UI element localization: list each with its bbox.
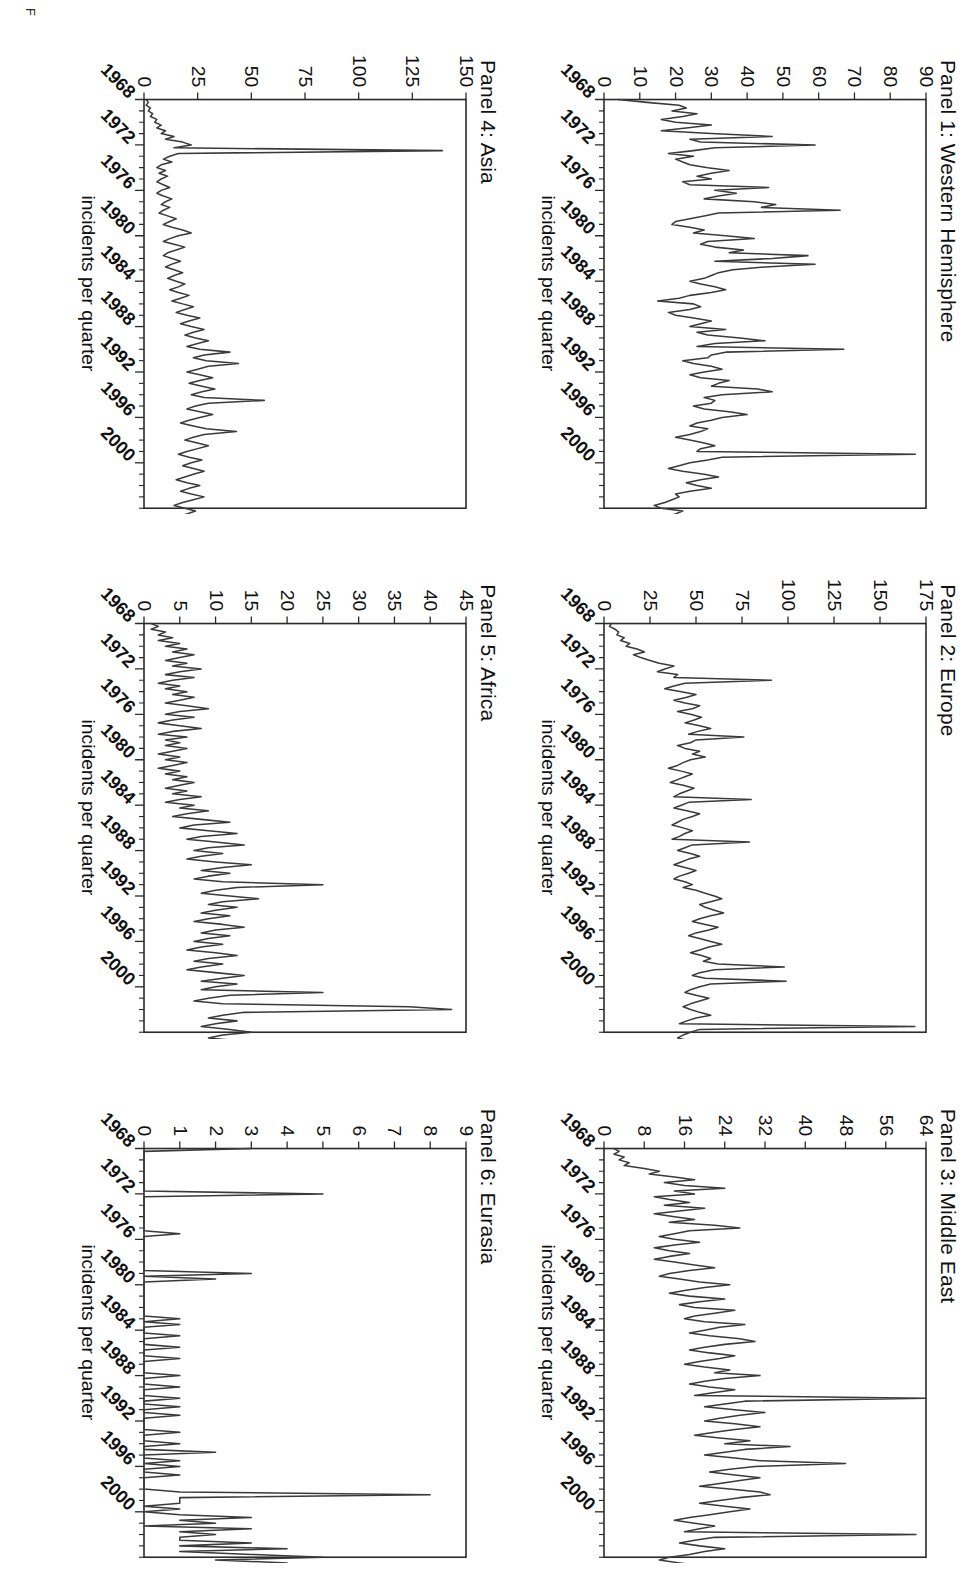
y-tick-label: 48 xyxy=(836,1115,857,1136)
panel-asia: Panel 4: Asia 0255075100125150incidents … xyxy=(46,0,506,524)
y-tick-label: 45 xyxy=(456,590,474,611)
x-tick-label: 1980 xyxy=(97,196,139,239)
x-tick-label: 1984 xyxy=(557,765,599,808)
plot-area: 0123456789incidents per quarter196819721… xyxy=(76,1055,474,1563)
x-tick-label: 1972 xyxy=(557,629,599,672)
y-tick-label: 150 xyxy=(870,579,891,611)
y-tick-label: 20 xyxy=(666,66,687,87)
plot-area: 0816243240485664incidents per quarter196… xyxy=(536,1055,934,1563)
y-tick-label: 2 xyxy=(206,1125,227,1136)
x-tick-label: 1968 xyxy=(557,1108,599,1151)
y-tick-label: 25 xyxy=(188,66,209,87)
y-tick-label: 25 xyxy=(313,590,334,611)
y-tick-label: 30 xyxy=(349,590,370,611)
y-tick-label: 75 xyxy=(732,590,753,611)
x-tick-label: 2000 xyxy=(557,1471,599,1514)
x-tick-label: 1988 xyxy=(557,811,599,854)
x-tick-label: 1980 xyxy=(557,720,599,763)
y-tick-label: 40 xyxy=(737,66,758,87)
plot-area: 0255075100125150175incidents per quarter… xyxy=(536,530,934,1038)
line-chart-africa: 051015202530354045incidents per quarter1… xyxy=(76,530,474,1038)
x-tick-label: 1968 xyxy=(557,59,599,102)
x-tick-label: 2000 xyxy=(97,423,139,466)
figure-caption: F xyxy=(23,8,38,1568)
x-tick-label: 1968 xyxy=(97,1108,139,1151)
y-tick-label: 60 xyxy=(809,66,830,87)
y-tick-label: 175 xyxy=(916,579,934,611)
x-tick-label: 1984 xyxy=(97,1290,139,1333)
plot-area: 0255075100125150incidents per quarter196… xyxy=(76,6,474,514)
x-tick-label: 1972 xyxy=(97,629,139,672)
x-tick-label: 1972 xyxy=(97,105,139,148)
y-tick-label: 40 xyxy=(420,590,441,611)
line-chart-eurasia: 0123456789incidents per quarter196819721… xyxy=(76,1055,474,1563)
y-tick-label: 16 xyxy=(675,1115,696,1136)
y-tick-label: 5 xyxy=(170,601,191,612)
x-tick-label: 1984 xyxy=(97,241,139,284)
y-tick-label: 5 xyxy=(313,1125,334,1136)
x-tick-label: 1988 xyxy=(557,1335,599,1378)
x-tick-label: 1980 xyxy=(557,196,599,239)
y-tick-label: 10 xyxy=(630,66,651,87)
panel-title: Panel 6: Eurasia xyxy=(476,1055,500,1563)
x-tick-label: 1996 xyxy=(557,1426,599,1469)
x-tick-label: 2000 xyxy=(557,423,599,466)
x-tick-label: 1980 xyxy=(97,1244,139,1287)
y-tick-label: 35 xyxy=(384,590,405,611)
y-tick-label: 9 xyxy=(456,1125,474,1136)
x-tick-label: 1996 xyxy=(97,1426,139,1469)
y-tick-label: 6 xyxy=(349,1125,370,1136)
x-tick-label: 1972 xyxy=(97,1153,139,1196)
panel-title: Panel 5: Africa xyxy=(476,530,500,1038)
y-tick-label: 40 xyxy=(795,1115,816,1136)
x-tick-label: 1996 xyxy=(557,902,599,945)
line-chart-middle-east: 0816243240485664incidents per quarter196… xyxy=(536,1055,934,1563)
y-tick-label: 25 xyxy=(640,590,661,611)
x-tick-label: 1976 xyxy=(557,675,599,718)
y-tick-label: 24 xyxy=(715,1115,736,1137)
y-axis-label: incidents per quarter xyxy=(78,1244,99,1421)
y-tick-label: 70 xyxy=(844,66,865,87)
y-tick-label: 125 xyxy=(824,579,845,611)
y-tick-label: 3 xyxy=(241,1125,262,1136)
x-tick-label: 1984 xyxy=(557,241,599,284)
x-tick-label: 1984 xyxy=(97,765,139,808)
y-tick-label: 80 xyxy=(880,66,901,87)
x-tick-label: 1988 xyxy=(557,286,599,329)
line-chart-western-hemisphere: 0102030405060708090incidents per quarter… xyxy=(536,6,934,514)
x-tick-label: 1992 xyxy=(97,856,139,899)
x-tick-label: 1972 xyxy=(557,1153,599,1196)
panel-western-hemisphere: Panel 1: Western Hemisphere 010203040506… xyxy=(506,0,966,524)
x-tick-label: 1976 xyxy=(557,1199,599,1242)
x-tick-label: 1988 xyxy=(97,1335,139,1378)
x-tick-label: 1984 xyxy=(557,1290,599,1333)
y-tick-label: 15 xyxy=(241,590,262,611)
y-tick-label: 50 xyxy=(773,66,794,87)
panel-eurasia: Panel 6: Eurasia 0123456789incidents per… xyxy=(46,1049,506,1573)
y-tick-label: 7 xyxy=(384,1125,405,1136)
y-tick-label: 100 xyxy=(349,55,370,87)
line-chart-europe: 0255075100125150175incidents per quarter… xyxy=(536,530,934,1038)
y-tick-label: 125 xyxy=(402,55,423,87)
x-tick-label: 1976 xyxy=(557,150,599,193)
x-tick-label: 1976 xyxy=(97,150,139,193)
x-tick-label: 2000 xyxy=(97,947,139,990)
x-tick-label: 2000 xyxy=(97,1471,139,1514)
x-tick-label: 2000 xyxy=(557,947,599,990)
y-tick-label: 10 xyxy=(206,590,227,611)
x-tick-label: 1968 xyxy=(97,59,139,102)
x-tick-label: 1976 xyxy=(97,1199,139,1242)
data-series-line xyxy=(151,624,452,1039)
panel-title: Panel 3: Middle East xyxy=(936,1055,960,1563)
y-axis-label: incidents per quarter xyxy=(78,196,99,373)
data-series-line xyxy=(614,1148,926,1563)
x-tick-label: 1976 xyxy=(97,675,139,718)
x-tick-label: 1992 xyxy=(557,332,599,375)
x-tick-label: 1992 xyxy=(557,856,599,899)
x-tick-label: 1996 xyxy=(97,902,139,945)
y-tick-label: 100 xyxy=(778,579,799,611)
data-series-line xyxy=(144,1148,466,1563)
y-tick-label: 64 xyxy=(916,1115,934,1137)
y-axis-label: incidents per quarter xyxy=(538,720,559,897)
x-tick-label: 1992 xyxy=(97,1380,139,1423)
